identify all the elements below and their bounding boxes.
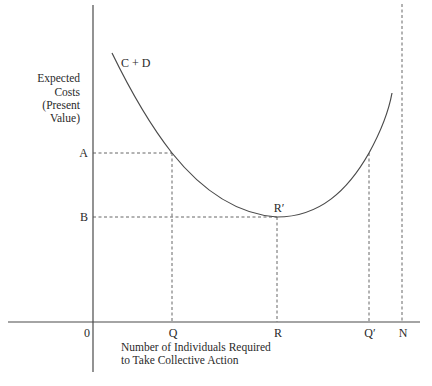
y-tick-a: A [79,146,88,160]
x-axis-title-line-1: Number of Individuals Required [121,341,271,354]
x-tick-r: R [274,326,282,340]
y-axis-title-line-2: Costs [54,86,80,98]
guide-lines [93,4,402,322]
y-axis-title-line-3: (Present [42,99,80,112]
min-point-label: R′ [274,201,285,215]
collective-action-cost-diagram: C + D Expected Costs (Present Value) A B… [0,0,432,386]
cost-curve-c-plus-d [112,53,392,217]
curve-label: C + D [121,56,151,70]
x-axis-title-line-2: to Take Collective Action [121,354,239,366]
y-axis-title: Expected Costs (Present Value) [37,72,81,125]
y-axis-title-line-1: Expected [37,72,80,85]
x-tick-q: Q [169,326,178,340]
x-tick-n: N [399,326,408,340]
y-tick-b: B [80,210,88,224]
y-axis-title-line-4: Value) [50,112,80,125]
x-tick-q-prime: Q′ [364,326,376,340]
origin-label: 0 [84,326,90,340]
